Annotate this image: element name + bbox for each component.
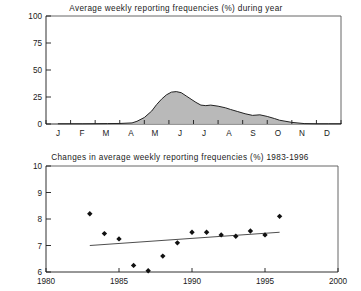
- top-x-label-aug: A: [226, 129, 232, 138]
- top-x-label-mar: M: [103, 129, 110, 138]
- two-panel-chart-figure: Average weekly reporting frequencies (%)…: [0, 0, 361, 291]
- bottom-y-label-6: 6: [37, 268, 42, 277]
- figure-background: [0, 0, 361, 291]
- top-x-label-feb: F: [79, 129, 84, 138]
- top-x-label-apr: A: [128, 129, 134, 138]
- bottom-y-label-10: 10: [33, 162, 43, 171]
- top-y-label-25: 25: [33, 93, 43, 102]
- top-x-label-nov: N: [299, 129, 305, 138]
- top-y-label-0: 0: [37, 120, 42, 129]
- bottom-y-label-7: 7: [37, 242, 42, 251]
- top-x-label-jan: J: [56, 129, 60, 138]
- bottom-y-label-9: 9: [37, 189, 42, 198]
- top-x-label-oct: O: [275, 129, 281, 138]
- figure-container: Average weekly reporting frequencies (%)…: [0, 0, 361, 291]
- bottom-chart-title: Changes in average weekly reporting freq…: [51, 153, 309, 162]
- top-y-label-100: 100: [28, 12, 42, 21]
- bottom-x-label-2000: 2000: [329, 277, 348, 286]
- top-x-label-may: M: [152, 129, 159, 138]
- top-x-label-jun: J: [178, 129, 182, 138]
- top-chart-title: Average weekly reporting frequencies (%)…: [69, 4, 282, 13]
- top-y-label-75: 75: [33, 39, 43, 48]
- bottom-x-label-1985: 1985: [110, 277, 129, 286]
- top-x-label-dec: D: [324, 129, 330, 138]
- top-x-label-sep: S: [250, 129, 256, 138]
- top-y-label-50: 50: [33, 66, 43, 75]
- bottom-x-label-1995: 1995: [256, 277, 275, 286]
- bottom-x-label-1990: 1990: [183, 277, 202, 286]
- top-x-label-jul: J: [202, 129, 206, 138]
- bottom-x-label-1980: 1980: [37, 277, 56, 286]
- bottom-y-label-8: 8: [37, 215, 42, 224]
